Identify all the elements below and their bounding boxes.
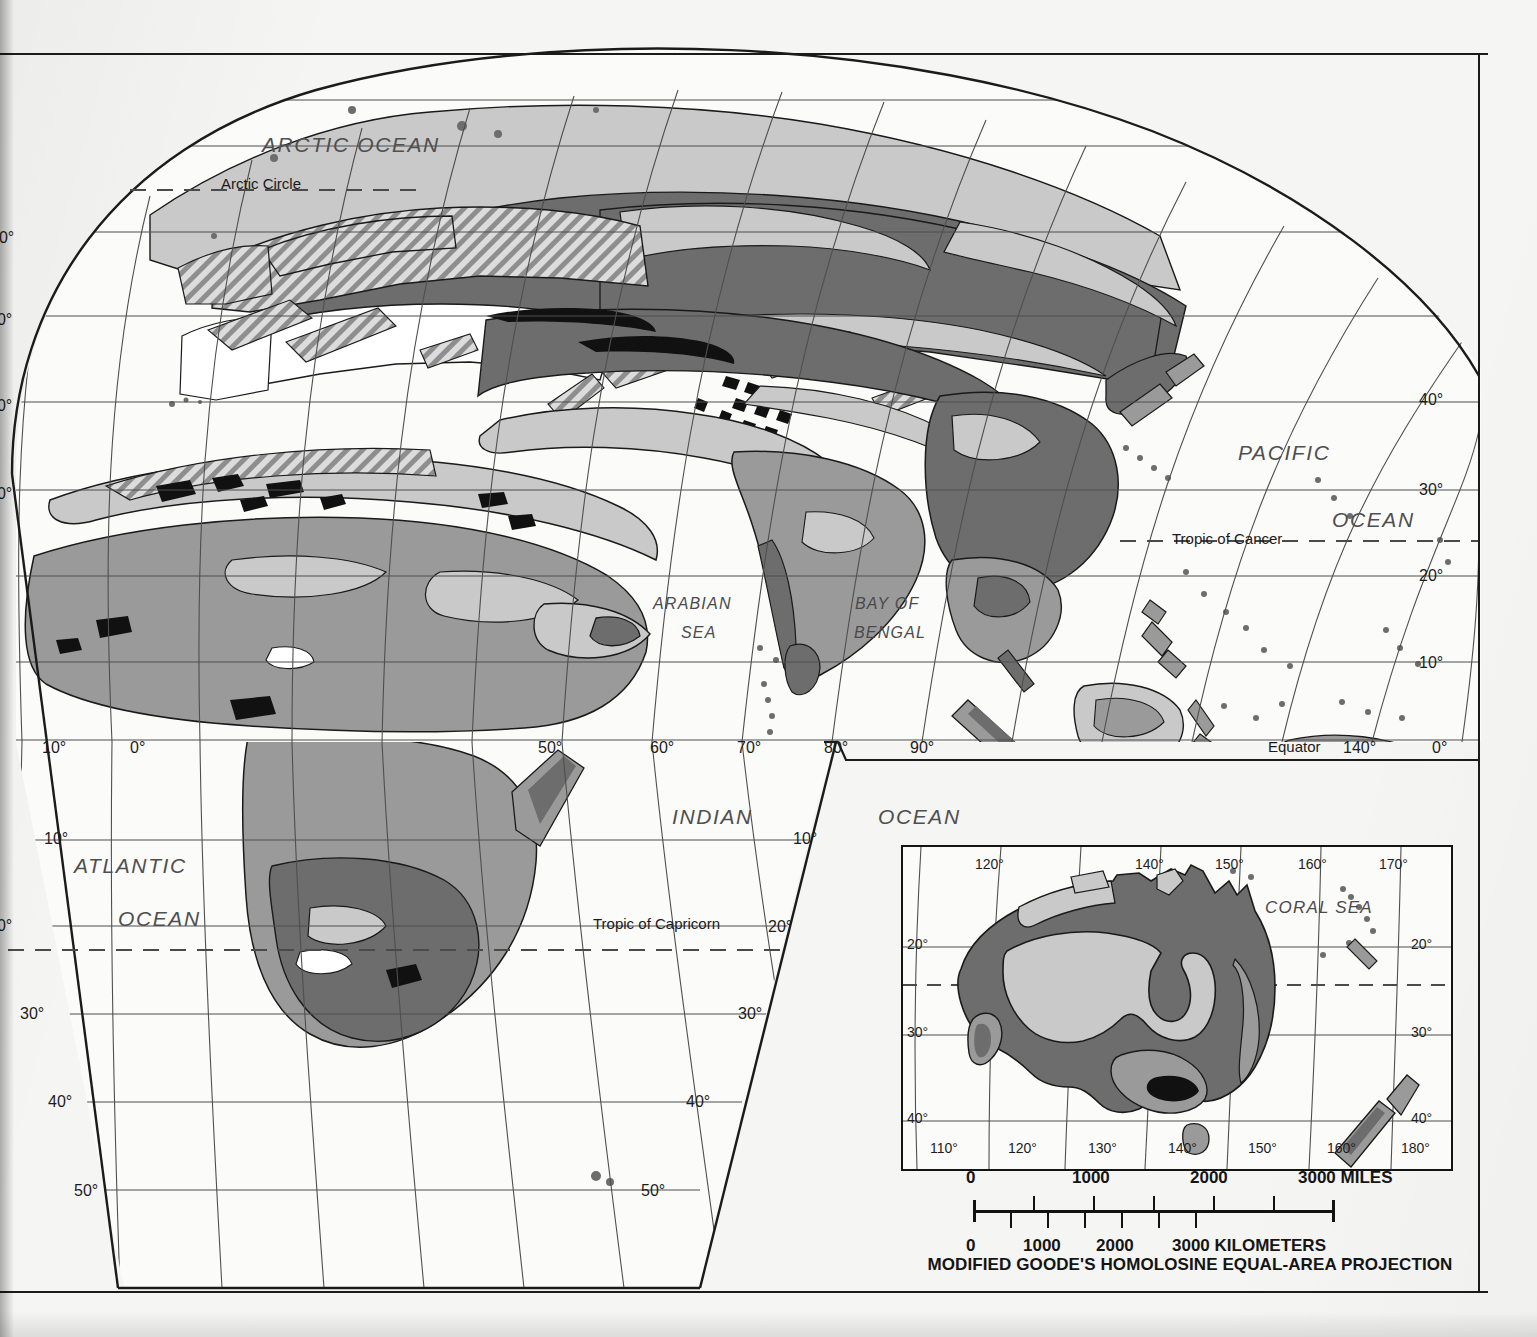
ocean-label-pacific-second: OCEAN (1332, 509, 1415, 530)
scale-rule-cap-right (1332, 1200, 1335, 1222)
inset-lat-40-left: 40° (907, 1111, 928, 1125)
label-tropic-of-capricorn: Tropic of Capricorn (593, 916, 720, 931)
lat-label-left-60: 60° (0, 230, 14, 246)
sea-label-bay-of-bengal: BAY OF (855, 596, 919, 612)
inset-lon-150-bottom: 150° (1248, 1141, 1277, 1155)
inset-lon-170-top: 170° (1379, 857, 1408, 871)
lat-label-left-40: 40° (0, 398, 12, 414)
map-page: ARCTIC OCEAN PACIFIC OCEAN ATLANTIC OCEA… (0, 0, 1537, 1337)
inset-lon-120-bottom: 120° (1008, 1141, 1037, 1155)
page-frame-right (1478, 53, 1480, 1293)
inset-lon-120-top: 120° (975, 857, 1004, 871)
inset-lon-160-top: 160° (1298, 857, 1327, 871)
ocean-label-atlantic: ATLANTIC (74, 855, 187, 876)
inset-lon-160-bottom: 160° (1327, 1141, 1356, 1155)
lat-label-inner-10s: 10° (793, 831, 817, 847)
scale-miles-0: 0 (966, 1168, 975, 1188)
ocean-label-indian: INDIAN (672, 806, 753, 827)
lon-label-90e: 90° (910, 740, 934, 756)
lat-label-left-40s: 40° (48, 1094, 72, 1110)
ocean-label-pacific: PACIFIC (1238, 442, 1330, 463)
ocean-label-atlantic-second: OCEAN (118, 908, 201, 929)
scale-rule-cap-left (973, 1200, 976, 1222)
scale-tick-miles-4 (1213, 1196, 1215, 1212)
lon-label-10w: 10° (42, 740, 66, 756)
scale-tick-km-5 (1158, 1212, 1160, 1228)
lat-label-right-40: 40° (1419, 392, 1443, 408)
lat-label-left-50s: 50° (74, 1183, 98, 1199)
scale-tick-km-3 (1084, 1212, 1086, 1228)
scale-tick-km-2 (1047, 1212, 1049, 1228)
lat-label-right-20: 20° (1419, 568, 1443, 584)
inset-lat-40-right: 40° (1411, 1111, 1432, 1125)
lon-label-60e: 60° (650, 740, 674, 756)
page-frame-top (0, 53, 1488, 55)
scale-miles-3000: 3000 MILES (1298, 1168, 1393, 1188)
sea-label-bay-of-bengal-second: BENGAL (854, 625, 926, 641)
projection-caption: MODIFIED GOODE'S HOMOLOSINE EQUAL-AREA P… (900, 1255, 1480, 1275)
ocean-label-arctic: ARCTIC OCEAN (262, 134, 440, 155)
lat-label-left-10s: 10° (44, 831, 68, 847)
lat-label-right-30: 30° (1419, 482, 1443, 498)
lat-label-0-right: 0° (1432, 740, 1447, 756)
lat-label-inner-50s: 50° (641, 1183, 665, 1199)
ocean-label-indian-second: OCEAN (878, 806, 961, 827)
inset-lat-30-left: 30° (907, 1025, 928, 1039)
lat-label-inner-40s: 40° (686, 1094, 710, 1110)
inset-lon-180-bottom: 180° (1401, 1141, 1430, 1155)
scale-miles-1000: 1000 (1072, 1168, 1110, 1188)
inset-lon-140-top: 140° (1135, 857, 1164, 871)
lat-label-left-30s: 30° (20, 1006, 44, 1022)
lat-label-inner-20s: 20° (768, 919, 792, 935)
lon-label-70e: 70° (737, 740, 761, 756)
inset-lon-110-bottom: 110° (930, 1141, 958, 1155)
lat-label-right-10: 10° (1419, 655, 1443, 671)
inset-lat-30-right: 30° (1411, 1025, 1432, 1039)
inset-lat-20-left: 20° (907, 937, 928, 951)
scale-tick-miles-3 (1153, 1196, 1155, 1212)
lon-label-80e: 80° (824, 740, 848, 756)
label-equator: Equator (1268, 739, 1321, 754)
inset-lon-140-bottom: 140° (1168, 1141, 1197, 1155)
lon-label-140e: 140° (1343, 740, 1376, 756)
lat-label-left-50: 50° (0, 312, 12, 328)
inset-lat-20-right: 20° (1411, 937, 1432, 951)
page-frame-bottom (0, 1291, 1488, 1293)
scale-km-3000: 3000 KILOMETERS (1172, 1236, 1326, 1256)
scale-tick-km-6 (1195, 1212, 1197, 1228)
sea-label-arabian-second: SEA (681, 625, 717, 641)
scale-km-0: 0 (966, 1236, 975, 1256)
inset-map-graphic (903, 847, 1451, 1169)
label-arctic-circle: Arctic Circle (221, 176, 301, 191)
lon-label-0: 0° (130, 740, 145, 756)
scale-miles-2000: 2000 (1190, 1168, 1228, 1188)
java (1042, 790, 1120, 818)
scale-tick-km-4 (1121, 1212, 1123, 1228)
scale-tick-miles-1 (1033, 1196, 1035, 1212)
lat-label-left-30: 30° (0, 486, 12, 502)
scale-tick-km-1 (1010, 1212, 1012, 1228)
lat-label-inner-30s: 30° (738, 1006, 762, 1022)
australia-inset-map: CORAL SEA 120° 140° 150° 160° 170° 110° … (901, 845, 1453, 1171)
inset-label-coral-sea: CORAL SEA (1265, 899, 1373, 916)
inset-lon-150-top: 150° (1215, 857, 1244, 871)
scale-tick-miles-5 (1273, 1196, 1275, 1212)
sea-label-arabian: ARABIAN (653, 596, 732, 612)
inset-lon-130-bottom: 130° (1088, 1141, 1117, 1155)
lon-label-50e: 50° (538, 740, 562, 756)
scale-km-1000: 1000 (1023, 1236, 1061, 1256)
scale-km-2000: 2000 (1096, 1236, 1134, 1256)
scale-tick-miles-2 (1093, 1196, 1095, 1212)
label-tropic-of-cancer: Tropic of Cancer (1172, 531, 1282, 546)
lat-label-left-20s: 20° (0, 918, 12, 934)
